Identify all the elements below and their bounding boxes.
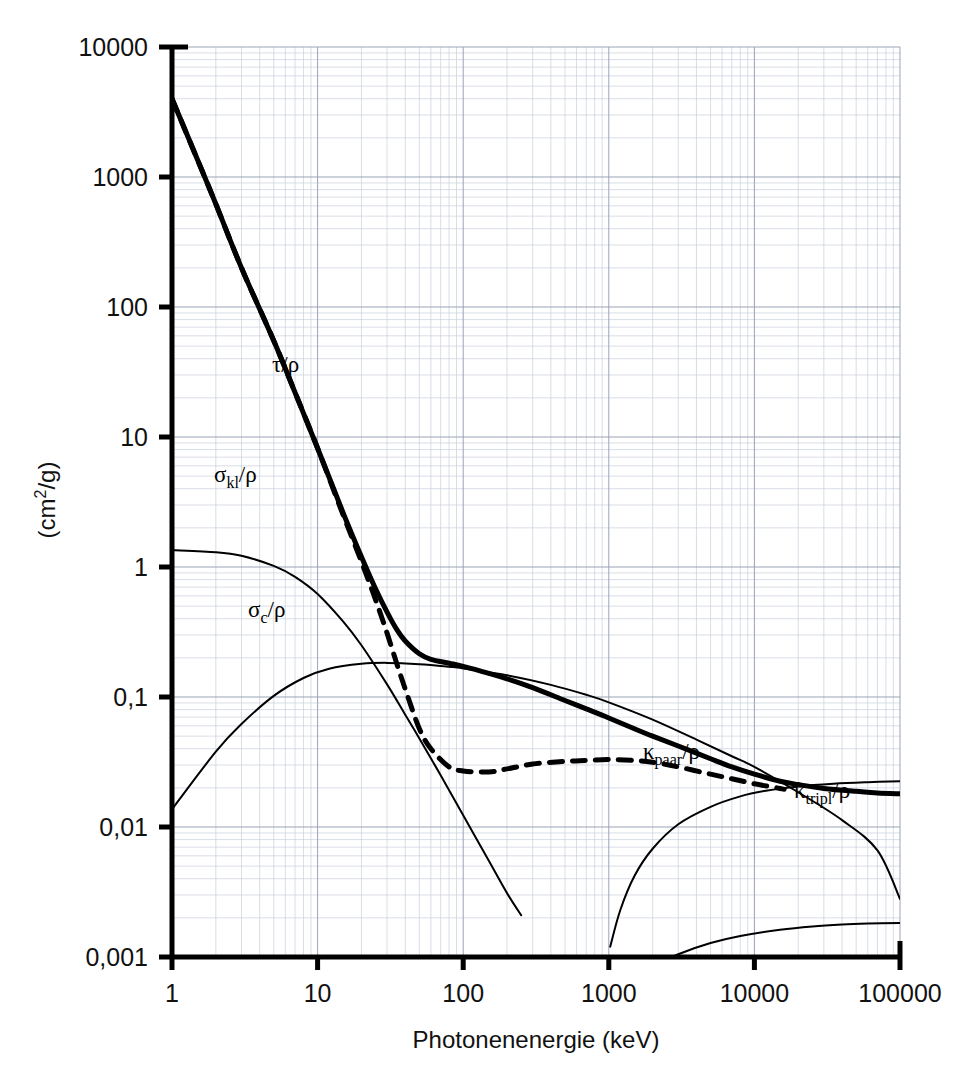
x-axis-title: Photonenenergie (keV) — [413, 1026, 660, 1053]
y-tick-label: 0,001 — [85, 943, 148, 971]
x-tick-label: 100 — [442, 979, 484, 1007]
y-axis-title-pre: (cm — [33, 498, 60, 538]
figure-root: 110100100010000100000 1000010001001010,1… — [0, 0, 980, 1092]
mass-attenuation-coefficient-chart: 110100100010000100000 1000010001001010,1… — [0, 0, 980, 1092]
x-tick-label: 10000 — [720, 979, 790, 1007]
y-tick-label: 1 — [134, 553, 148, 581]
curve-label-tau-rho: τ/ρ — [272, 352, 299, 377]
x-tick-label: 1 — [165, 979, 179, 1007]
curve-label-sigma-c-rho: σc/ρ — [248, 597, 285, 626]
y-tick-label: 10 — [120, 423, 148, 451]
y-tick-label: 100 — [106, 293, 148, 321]
y-axis-title-superscript: 2 — [32, 489, 49, 498]
y-tick-label: 0,1 — [113, 683, 148, 711]
y-axis-title: (cm2/g) — [32, 462, 60, 539]
y-tick-label: 1000 — [92, 163, 148, 191]
x-tick-label: 1000 — [581, 979, 637, 1007]
y-axis-title-post: /g) — [33, 462, 60, 490]
x-tick-label: 10 — [304, 979, 332, 1007]
svg-text:(cm2/g): (cm2/g) — [32, 462, 60, 539]
y-tick-label: 10000 — [78, 33, 148, 61]
y-tick-label: 0,01 — [99, 813, 148, 841]
x-tick-label: 100000 — [858, 979, 941, 1007]
